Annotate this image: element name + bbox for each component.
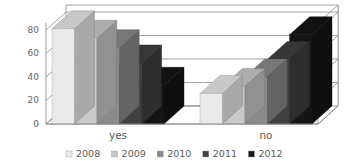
y-axis-tick-label: 20 — [28, 95, 40, 105]
bar-side-face — [74, 11, 94, 124]
legend-label-2012: 2012 — [258, 148, 282, 159]
y-axis-tick-label: 60 — [28, 48, 40, 58]
category-label-yes: yes — [109, 129, 127, 141]
chart-container: 020406080 yesno 20082009201020112012 — [0, 0, 346, 166]
bar-front-face — [200, 93, 222, 124]
category-label-no: no — [259, 129, 272, 141]
legend-swatch-2011 — [203, 151, 209, 157]
legend-swatch-2010 — [157, 151, 163, 157]
legend-swatch-2009 — [112, 151, 118, 157]
legend-swatch-2012 — [248, 151, 254, 157]
bar-2008-yes — [52, 11, 94, 124]
legend-label-2011: 2011 — [213, 148, 237, 159]
legend-label-2010: 2010 — [167, 148, 191, 159]
y-axis-tick-label: 40 — [28, 72, 40, 82]
bar-side-face — [312, 17, 332, 124]
chart-y-axis-labels: 020406080 — [28, 25, 40, 129]
chart-legend: 20082009201020112012 — [66, 148, 283, 159]
y-axis-tick-label: 0 — [33, 119, 39, 129]
bar-front-face — [52, 29, 74, 124]
legend-label-2009: 2009 — [122, 148, 146, 159]
y-axis-tick-label: 80 — [28, 25, 40, 35]
chart-category-labels: yesno — [109, 129, 273, 141]
legend-swatch-2008 — [66, 151, 72, 157]
legend-label-2008: 2008 — [76, 148, 100, 159]
bar-chart-3d: 020406080 yesno 20082009201020112012 — [0, 0, 346, 166]
